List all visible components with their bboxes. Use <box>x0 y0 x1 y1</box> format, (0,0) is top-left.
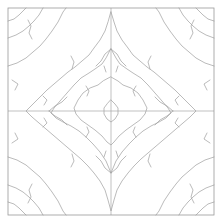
contour-plot <box>0 0 222 223</box>
contour-plot-canvas <box>0 0 222 223</box>
